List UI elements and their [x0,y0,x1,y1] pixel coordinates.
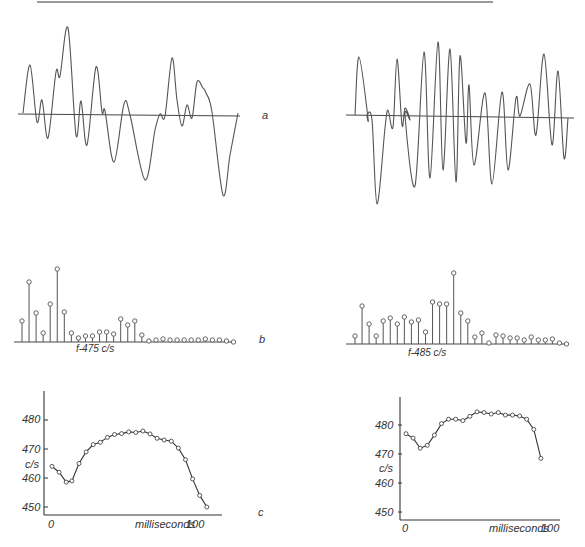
stem-marker [196,338,200,342]
ytick-450-left: 450 [22,501,41,513]
stem-marker [374,334,378,338]
stem-marker [69,331,73,335]
stem-marker [536,338,540,342]
pitch-marker [134,431,138,435]
pitch-line [52,431,207,507]
ytick-470-left: 470 [22,443,41,455]
stem-marker [395,322,399,326]
stem-marker [111,332,115,336]
stem-marker [90,334,94,338]
ytick-470-right: 470 [375,448,394,460]
stem-marker [55,267,59,271]
panel-label-b: b [259,333,265,345]
pitch-marker [98,440,102,444]
stem-marker [564,342,568,346]
ytick-450-right: 450 [375,506,394,518]
stem-marker [76,336,80,340]
xtick-0-right: 0 [402,522,409,534]
stem-marker [161,337,165,341]
pitch-marker [184,458,188,462]
stem-marker [480,331,484,335]
stem-marker [402,315,406,319]
pitch-marker [77,462,81,466]
stem-marker [119,317,123,321]
pitch-marker [489,412,493,416]
stem-marker [353,334,357,338]
panel-a-left [18,27,240,196]
pitch-marker [475,410,479,414]
pitch-marker [141,429,145,433]
stem-marker [175,338,179,342]
stem-marker [83,334,87,338]
pitch-marker [468,414,472,418]
panel-label-a: a [262,109,268,121]
stem-marker [487,341,491,345]
stem-marker [203,337,207,341]
pitch-chart-left: 480 470 c/s 460 450 0 milliseconds 100 [22,391,222,530]
stem-marker [515,336,519,340]
pitch-marker [532,427,536,431]
pitch-marker [432,433,436,437]
ylabel-left: c/s [25,458,40,470]
xtick-100-right: 100 [541,522,560,534]
stem-marker [48,302,52,306]
stem-marker [224,339,228,343]
pitch-marker [105,435,109,439]
stem-marker [189,338,193,342]
xtick-100-left: 100 [186,518,205,530]
pitch-marker [461,419,465,423]
stem-marker [501,334,505,338]
pitch-marker [148,432,152,436]
ylabel-right: c/s [379,462,394,474]
pitch-marker [191,477,195,481]
stem-marker [154,338,158,342]
stem-marker [168,338,172,342]
stem-marker [423,330,427,334]
pitch-marker [539,456,543,460]
ytick-480-left: 480 [22,413,41,425]
stem-marker [231,340,235,344]
spectrum-b-right [346,271,569,346]
ytick-460-left: 460 [22,472,41,484]
stem-marker [466,319,470,323]
pitch-marker [518,414,522,418]
stem-marker [508,336,512,340]
stem-marker [437,302,441,306]
pitch-marker [162,438,166,442]
pitch-marker [404,432,408,436]
pitch-marker [57,470,61,474]
stem-marker [217,338,221,342]
stem-marker [210,338,214,342]
xtick-0-left: 0 [48,518,55,530]
panel-a-right [346,42,574,204]
pitch-marker [91,443,95,447]
stem-marker [34,311,38,315]
pitch-marker [127,430,131,434]
panel-label-c: c [258,506,264,518]
spectrum-b-left [14,267,236,344]
stem-marker [133,319,137,323]
stem-marker [529,335,533,339]
stem-marker [452,271,456,275]
stem-marker [126,323,130,327]
stem-marker [388,316,392,320]
stem-marker [20,319,24,323]
pitch-marker [440,422,444,426]
stem-marker [522,338,526,342]
pitch-marker [113,433,117,437]
stem-marker [557,341,561,345]
pitch-marker [120,432,124,436]
pitch-marker [482,411,486,415]
pitch-marker [447,417,451,421]
pitch-marker [418,446,422,450]
pitch-marker [64,480,68,484]
stem-marker [182,338,186,342]
stem-marker [360,304,364,308]
stem-marker [473,335,477,339]
stem-marker [416,318,420,322]
stem-marker [543,338,547,342]
figure-canvas: a f-475 c/s f-485 c/s b 480 470 c/s 460 … [0,0,585,547]
pitch-marker [511,413,515,417]
pitch-marker [525,417,529,421]
pitch-marker [454,417,458,421]
